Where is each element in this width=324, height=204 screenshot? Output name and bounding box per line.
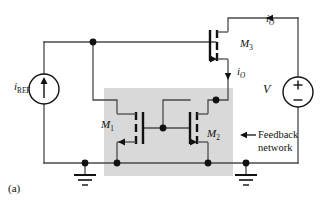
label-feedback-line2: network: [258, 143, 292, 154]
label-transistor-m2: M2: [207, 128, 220, 142]
feedback-pointer-arrow: [240, 132, 256, 138]
node-ground-left: [82, 160, 89, 167]
node-ground-right: [243, 160, 250, 167]
node-center-gate: [160, 125, 167, 132]
label-io-branch: iO: [237, 66, 245, 80]
transistor-m3: [210, 30, 228, 62]
label-current-source-iref: iREF: [14, 81, 30, 95]
wire-m3-drain: [228, 18, 298, 31]
ground-left: [74, 175, 96, 185]
label-io-top: iO: [266, 13, 274, 27]
node-m1-source: [114, 160, 121, 167]
node-m2-source: [205, 160, 212, 167]
ground-right: [235, 175, 257, 185]
label-transistor-m1: M1: [101, 119, 114, 133]
node-top-branch: [90, 39, 97, 46]
label-transistor-m3: M3: [240, 38, 253, 52]
label-feedback-line1: Feedback: [258, 130, 298, 141]
label-voltage-source-v: V: [263, 83, 270, 95]
circuit-schematic-svg: [0, 0, 324, 204]
figure-caption: (a): [8, 183, 20, 194]
voltage-source-v: [283, 77, 313, 107]
current-source-iref: [29, 74, 59, 104]
circuit-figure: iREF M1 M2 M3 iO iO V Feedback network (…: [0, 0, 324, 204]
current-arrow-io-branch: [225, 73, 231, 80]
node-m2-drain: [213, 97, 220, 104]
